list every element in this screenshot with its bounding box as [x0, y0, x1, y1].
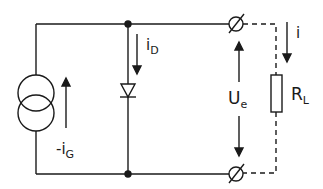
junction-top — [125, 21, 131, 27]
voltage-arrow-up-icon — [235, 42, 243, 82]
arrow-down-icon — [133, 34, 141, 74]
terminal-bottom-icon — [229, 164, 244, 183]
circuit-schematic — [0, 0, 323, 189]
arrow-up-icon — [62, 78, 70, 128]
label-source-current: -iG — [56, 142, 74, 157]
current-source-icon — [18, 75, 54, 131]
label-load-resistor: RL — [291, 86, 309, 103]
resistor-icon — [271, 75, 282, 112]
diode-icon — [120, 84, 136, 97]
voltage-arrow-down-icon — [235, 116, 243, 156]
terminal-top-icon — [229, 14, 244, 33]
label-output-voltage: Ue — [228, 90, 247, 107]
label-diode-current: iD — [146, 38, 159, 53]
label-load-current: i — [296, 26, 300, 41]
junction-bottom — [125, 171, 131, 177]
circuit-diagram: -iG iD Ue RL i — [0, 0, 323, 189]
load-current-arrow-icon — [283, 22, 291, 62]
